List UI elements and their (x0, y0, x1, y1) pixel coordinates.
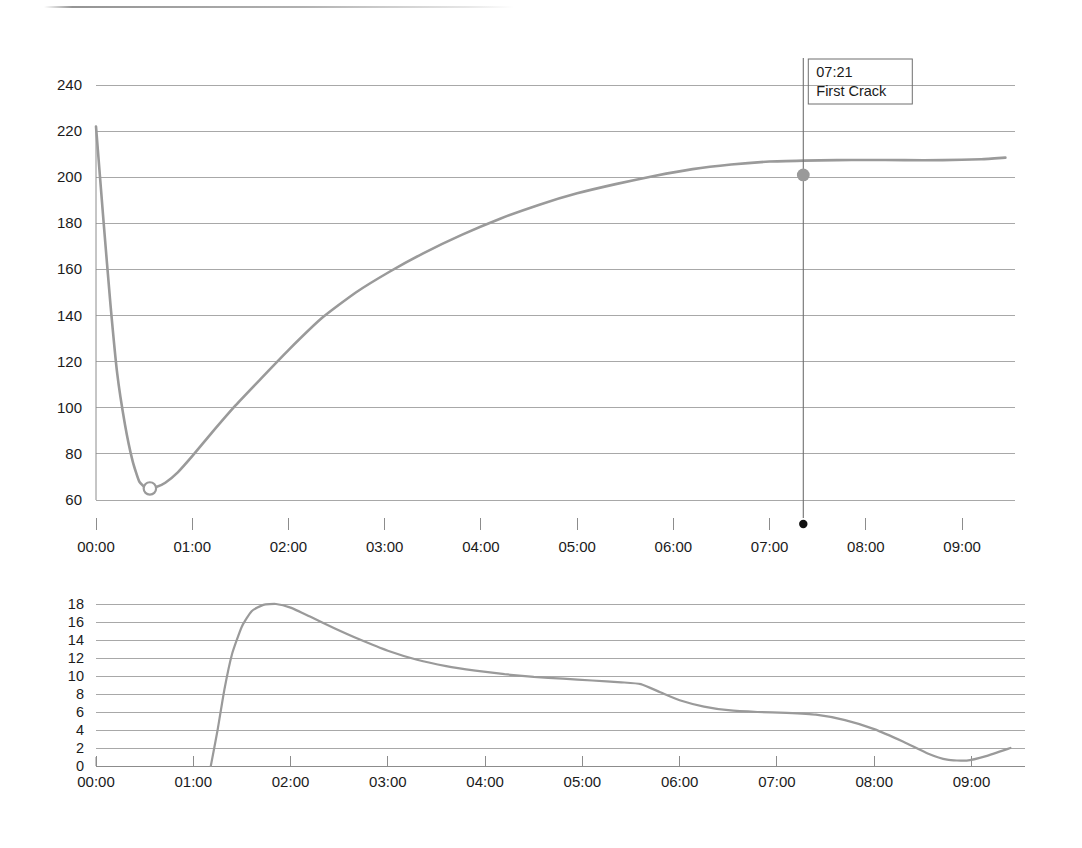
x-tick-label-00:00: 00:00 (77, 773, 115, 790)
gridlines-group: 024681012141618 (68, 596, 1025, 774)
temperature-curve (96, 127, 1005, 489)
y-tick-label-2: 2 (76, 740, 84, 756)
y-tick-label-220: 220 (57, 122, 82, 139)
rate-of-rise-chart: 02468101214161800:0001:0002:0003:0004:00… (0, 580, 1082, 810)
y-tick-label-10: 10 (68, 668, 84, 684)
x-tick-label-04:00: 04:00 (466, 773, 504, 790)
y-tick-label-14: 14 (68, 632, 84, 648)
x-axis-group: 00:0001:0002:0003:0004:0005:0006:0007:00… (77, 756, 990, 790)
x-tick-label-07:00: 07:00 (751, 538, 789, 555)
x-tick-label-02:00: 02:00 (272, 773, 310, 790)
x-tick-label-08:00: 08:00 (855, 773, 893, 790)
y-tick-label-16: 16 (68, 614, 84, 630)
y-tick-label-140: 140 (57, 307, 82, 324)
rate-of-rise-curve (211, 604, 1011, 766)
first-crack-text-label: First Crack (816, 83, 887, 99)
x-tick-label-01:00: 01:00 (173, 538, 211, 555)
y-tick-label-4: 4 (76, 722, 84, 738)
bean-temperature-chart: 608010012014016018020022024000:0001:0002… (0, 40, 1082, 570)
x-tick-label-05:00: 05:00 (558, 538, 596, 555)
x-tick-label-01:00: 01:00 (175, 773, 213, 790)
x-tick-label-09:00: 09:00 (953, 773, 991, 790)
y-tick-label-8: 8 (76, 686, 84, 702)
y-tick-label-60: 60 (65, 491, 82, 508)
bean-temperature-plot: 608010012014016018020022024000:0001:0002… (0, 40, 1082, 570)
y-tick-label-6: 6 (76, 704, 84, 720)
first-crack-time-label: 07:21 (816, 64, 852, 80)
x-tick-label-00:00: 00:00 (77, 538, 115, 555)
gridlines-group: 6080100120140160180200220240 (57, 76, 1015, 508)
y-tick-label-120: 120 (57, 353, 82, 370)
x-tick-label-09:00: 09:00 (943, 538, 981, 555)
x-tick-label-03:00: 03:00 (369, 773, 407, 790)
marker-turning-point (144, 482, 156, 494)
x-tick-label-08:00: 08:00 (847, 538, 885, 555)
scan-artifact-line (44, 6, 514, 8)
x-tick-label-06:00: 06:00 (655, 538, 693, 555)
y-tick-label-80: 80 (65, 445, 82, 462)
y-tick-label-180: 180 (57, 214, 82, 231)
y-tick-label-18: 18 (68, 596, 84, 612)
y-tick-label-240: 240 (57, 76, 82, 93)
x-tick-label-07:00: 07:00 (758, 773, 796, 790)
x-tick-label-02:00: 02:00 (270, 538, 308, 555)
x-tick-label-04:00: 04:00 (462, 538, 500, 555)
marker-first-crack-point (797, 169, 810, 182)
x-tick-label-06:00: 06:00 (661, 773, 699, 790)
first-crack-axis-dot (799, 520, 807, 528)
x-tick-label-03:00: 03:00 (366, 538, 404, 555)
y-tick-label-100: 100 (57, 399, 82, 416)
x-axis-group: 00:0001:0002:0003:0004:0005:0006:0007:00… (77, 518, 981, 555)
y-tick-label-0: 0 (76, 758, 84, 774)
rate-of-rise-plot: 02468101214161800:0001:0002:0003:0004:00… (0, 580, 1082, 810)
x-tick-label-05:00: 05:00 (564, 773, 602, 790)
y-tick-label-160: 160 (57, 260, 82, 277)
y-tick-label-200: 200 (57, 168, 82, 185)
y-tick-label-12: 12 (68, 650, 84, 666)
